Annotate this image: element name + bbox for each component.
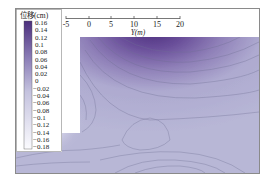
legend-level: −0.18: [33, 143, 50, 151]
x-tick-label: 20: [176, 20, 184, 29]
x-tick-label: 5: [109, 20, 113, 29]
x-axis-label: Y(m): [131, 28, 146, 37]
x-tick-label: -5: [63, 20, 70, 29]
contour-chart: -5 0 5 10 15 20 Y(m) 位移(cm) 0.16 0.14 0.…: [0, 0, 271, 188]
x-tick-label: 15: [153, 20, 161, 29]
legend: 位移(cm) 0.16 0.14 0.12 0.1 0.08 0.06 0.04…: [17, 10, 62, 152]
legend-color-bar: [24, 21, 32, 149]
x-tick-label: 0: [87, 20, 91, 29]
